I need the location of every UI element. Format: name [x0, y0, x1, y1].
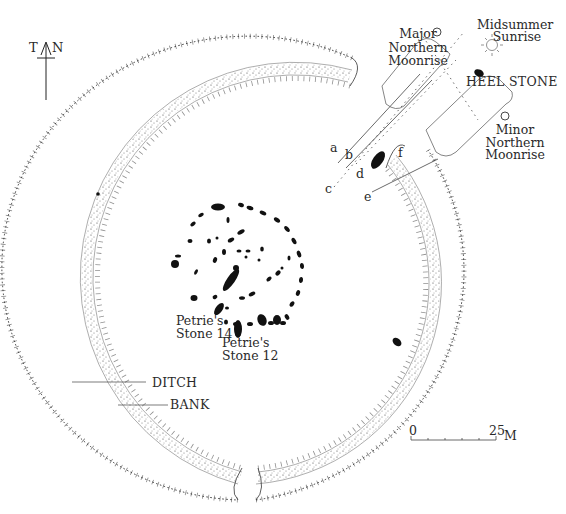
- major-moonrise-label-1: Major: [397, 28, 439, 41]
- stonehenge-plan: T N Major Northern Moonrise Midsummer Su…: [0, 0, 566, 514]
- scale-start-label: 0: [409, 425, 417, 438]
- scale-end-label: 25: [489, 425, 505, 438]
- sightline-b: [346, 80, 432, 168]
- midsummer-sunrise-label-2: Sunrise: [487, 31, 547, 44]
- major-moonrise-label-3: Moonrise: [387, 55, 449, 68]
- sightline-b-label: b: [345, 149, 353, 162]
- sightline-c-label: c: [325, 183, 332, 196]
- north-arrow-n-label: N: [52, 41, 63, 54]
- heel-stone-label: HEEL STONE: [466, 76, 558, 89]
- henge-earthwork: [2, 36, 464, 500]
- minor-moonrise-label-3: Moonrise: [485, 149, 545, 162]
- scale-bar: [411, 436, 496, 440]
- sightline-a-label: a: [330, 142, 337, 155]
- station-stone-icon: [96, 192, 100, 196]
- minor-moonrise-icon: [501, 112, 509, 120]
- slaughter-stone-icon: [368, 149, 388, 171]
- sightline-f-label: f: [398, 147, 403, 160]
- ditch-label: DITCH: [152, 377, 197, 390]
- scale-unit-label: M: [504, 430, 517, 443]
- sightline-d: [356, 60, 456, 164]
- sightline-e-label: e: [364, 191, 371, 204]
- station-stone-icon: [391, 336, 403, 348]
- bank-label: BANK: [170, 399, 210, 412]
- petrie-12-label-2: Stone 12: [222, 350, 278, 363]
- sightline-d-label: d: [356, 168, 364, 181]
- north-arrow-t-label: T: [29, 41, 38, 54]
